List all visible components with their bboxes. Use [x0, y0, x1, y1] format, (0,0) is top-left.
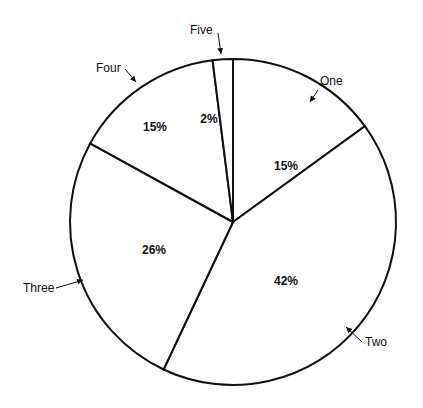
pie-chart: 15%One42%Two26%Three15%Four2%Five — [0, 0, 423, 408]
slice-category-label: Four — [96, 61, 121, 75]
slice-percent-label: 26% — [142, 243, 166, 257]
callout-arrow-icon — [218, 33, 221, 54]
slice-percent-label: 15% — [274, 159, 298, 173]
slice-percent-label: 42% — [274, 274, 298, 288]
slice-percent-label: 2% — [200, 112, 218, 126]
slice-category-label: Five — [190, 23, 213, 37]
slice-category-label: Three — [23, 281, 55, 295]
slice-category-label: One — [320, 74, 343, 88]
callout-arrow-icon — [125, 69, 136, 82]
slice-percent-label: 15% — [143, 120, 167, 134]
slice-category-label: Two — [365, 335, 387, 349]
callout-arrow-icon — [56, 280, 83, 288]
